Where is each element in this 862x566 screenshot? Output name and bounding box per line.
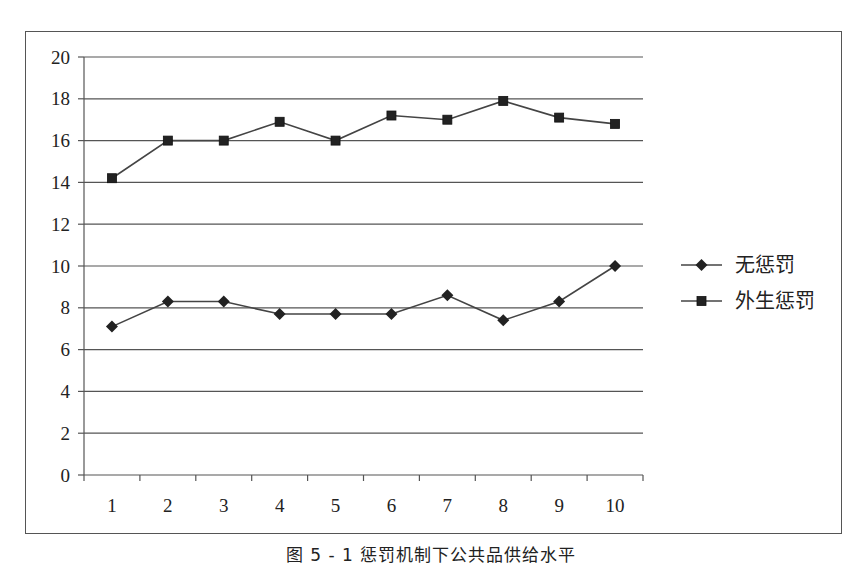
data-series bbox=[106, 96, 621, 332]
legend-label: 外生惩罚 bbox=[735, 290, 815, 312]
square-marker bbox=[499, 96, 508, 105]
x-tick-label: 2 bbox=[163, 495, 173, 516]
square-marker bbox=[275, 117, 284, 126]
square-marker bbox=[555, 113, 564, 122]
square-marker bbox=[611, 119, 620, 128]
series-exogenous-punishment bbox=[107, 96, 619, 182]
y-tick-label: 12 bbox=[51, 214, 70, 235]
y-tick-label: 2 bbox=[61, 423, 71, 444]
x-tick-label: 4 bbox=[275, 495, 285, 516]
y-tick-label: 4 bbox=[61, 381, 71, 402]
y-tick-label: 0 bbox=[61, 465, 71, 486]
diamond-marker bbox=[497, 314, 509, 326]
y-tick-label: 6 bbox=[61, 339, 71, 360]
x-tick-label: 3 bbox=[219, 495, 229, 516]
square-marker bbox=[443, 115, 452, 124]
diamond-marker bbox=[385, 308, 397, 320]
figure-caption: 图 5 - 1 惩罚机制下公共品供给水平 bbox=[0, 541, 862, 566]
y-tick-label: 18 bbox=[51, 88, 70, 109]
diamond-marker bbox=[274, 308, 286, 320]
legend-diamond-icon bbox=[696, 259, 708, 271]
legend-label: 无惩罚 bbox=[735, 254, 795, 276]
square-marker bbox=[163, 136, 172, 145]
legend: 无惩罚外生惩罚 bbox=[681, 254, 815, 312]
x-tick-label: 8 bbox=[499, 495, 509, 516]
series-no-punishment bbox=[106, 260, 621, 333]
y-tick-label: 16 bbox=[51, 130, 70, 151]
diamond-marker bbox=[441, 289, 453, 301]
x-axis-ticks: 12345678910 bbox=[84, 475, 643, 516]
x-tick-label: 9 bbox=[554, 495, 564, 516]
diamond-marker bbox=[162, 296, 174, 308]
x-tick-label: 1 bbox=[107, 495, 117, 516]
legend-item: 无惩罚 bbox=[681, 254, 795, 276]
x-tick-label: 5 bbox=[331, 495, 341, 516]
y-axis-ticks: 02468101214161820 bbox=[51, 47, 84, 486]
y-tick-label: 20 bbox=[51, 47, 70, 68]
square-marker bbox=[387, 111, 396, 120]
y-tick-label: 8 bbox=[61, 297, 71, 318]
diamond-marker bbox=[106, 321, 118, 333]
diamond-marker bbox=[330, 308, 342, 320]
diamond-marker bbox=[553, 296, 565, 308]
x-tick-label: 10 bbox=[606, 495, 625, 516]
square-marker bbox=[331, 136, 340, 145]
y-tick-label: 10 bbox=[51, 256, 70, 277]
x-tick-label: 6 bbox=[387, 495, 397, 516]
square-marker bbox=[219, 136, 228, 145]
legend-item: 外生惩罚 bbox=[681, 290, 815, 312]
square-marker bbox=[107, 174, 116, 183]
diamond-marker bbox=[609, 260, 621, 272]
x-tick-label: 7 bbox=[443, 495, 453, 516]
legend-square-icon bbox=[697, 297, 706, 306]
y-tick-label: 14 bbox=[51, 172, 71, 193]
diamond-marker bbox=[218, 296, 230, 308]
